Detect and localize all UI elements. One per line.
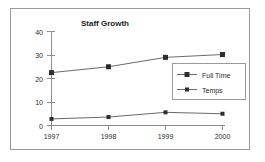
series-markers-temps [50,110,225,121]
series-group-temps [50,110,225,121]
x-tick-label-1999: 1999 [158,133,174,140]
legend-label-temps: Temps [202,87,223,95]
y-tick-label-40: 40 [35,29,43,36]
data-point-marker [163,55,168,60]
series-line-temps [52,112,223,119]
data-point-marker [220,52,225,57]
data-point-marker [164,110,168,114]
data-point-marker [50,117,54,121]
y-tick-label-30: 30 [35,52,43,59]
data-point-marker [106,64,111,69]
chart-legend: Full Time Temps [173,64,246,100]
legend-box [173,64,246,100]
y-tick-label-20: 20 [35,76,43,83]
legend-marker-full-time [185,72,190,77]
y-tick-label-10: 10 [35,99,43,106]
staff-growth-line-chart: Staff Growth 40 30 20 10 0 1997 1998 199… [11,9,251,151]
y-tick-label-0: 0 [39,123,43,130]
data-point-marker [221,112,225,116]
chart-frame: Staff Growth 40 30 20 10 0 1997 1998 199… [10,8,250,150]
data-point-marker [49,70,54,75]
x-tick-label-1998: 1998 [101,133,117,140]
x-tick-label-1997: 1997 [44,133,60,140]
x-tick-label-2000: 2000 [215,133,231,140]
data-point-marker [107,115,111,119]
legend-label-full-time: Full Time [202,72,231,79]
legend-marker-temps [185,88,189,92]
chart-title: Staff Growth [81,19,129,28]
